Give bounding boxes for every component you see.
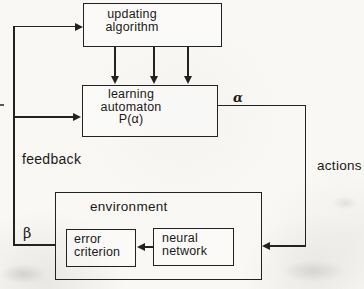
arrowhead-into-updating-icon <box>75 23 83 31</box>
update-arrow-3-head-icon <box>184 76 192 84</box>
environment-box: environment error criterion neural netwo… <box>55 192 262 280</box>
beta-line <box>13 244 56 246</box>
actions-line-vertical <box>305 105 307 247</box>
actions-to-environment-line <box>270 245 306 247</box>
error-criterion-line1: error <box>74 233 120 246</box>
update-arrow-2-head-icon <box>150 76 158 84</box>
scan-smudge <box>280 260 346 282</box>
neural-network-line2: network <box>162 245 207 258</box>
learning-automaton-box: learning automaton P(α) <box>82 85 218 137</box>
actions-label: actions <box>317 158 362 173</box>
scan-smudge <box>332 196 358 210</box>
learning-automaton-line1: learning <box>85 88 177 101</box>
scan-artifact-dash <box>0 104 4 106</box>
scan-smudge <box>0 264 46 284</box>
error-criterion-box: error criterion <box>66 229 136 267</box>
feedback-label: feedback <box>22 151 81 167</box>
neural-network-label: neural network <box>162 232 207 257</box>
arrowhead-into-environment-icon <box>262 242 270 250</box>
updating-algorithm-label: updating algorithm <box>86 8 178 33</box>
feedback-line-vertical <box>13 26 15 246</box>
updating-algorithm-box: updating algorithm <box>83 3 222 47</box>
updating-algorithm-line2: algorithm <box>86 21 178 34</box>
beta-label: β <box>23 225 32 241</box>
feedback-to-automaton-line <box>13 116 73 118</box>
diagram-canvas: updating algorithm learning automaton P(… <box>0 0 364 289</box>
error-criterion-line2: criterion <box>74 246 120 259</box>
update-arrow-3-line <box>187 47 189 76</box>
alpha-output-line <box>218 105 306 107</box>
learning-automaton-label: learning automaton P(α) <box>85 88 177 126</box>
update-arrow-1-head-icon <box>111 76 119 84</box>
network-to-criterion-line <box>144 246 153 248</box>
neural-network-box: neural network <box>153 228 234 266</box>
update-arrow-2-line <box>153 47 155 76</box>
updating-algorithm-line1: updating <box>86 8 178 21</box>
arrowhead-into-criterion-icon <box>137 243 145 251</box>
learning-automaton-line3: P(α) <box>85 113 177 126</box>
environment-label: environment <box>90 199 168 214</box>
update-arrow-1-line <box>114 47 116 76</box>
error-criterion-label: error criterion <box>74 233 120 258</box>
arrowhead-into-automaton-icon <box>73 113 81 121</box>
feedback-to-updating-line <box>13 26 75 28</box>
neural-network-line1: neural <box>162 232 207 245</box>
alpha-label: α <box>233 90 243 105</box>
